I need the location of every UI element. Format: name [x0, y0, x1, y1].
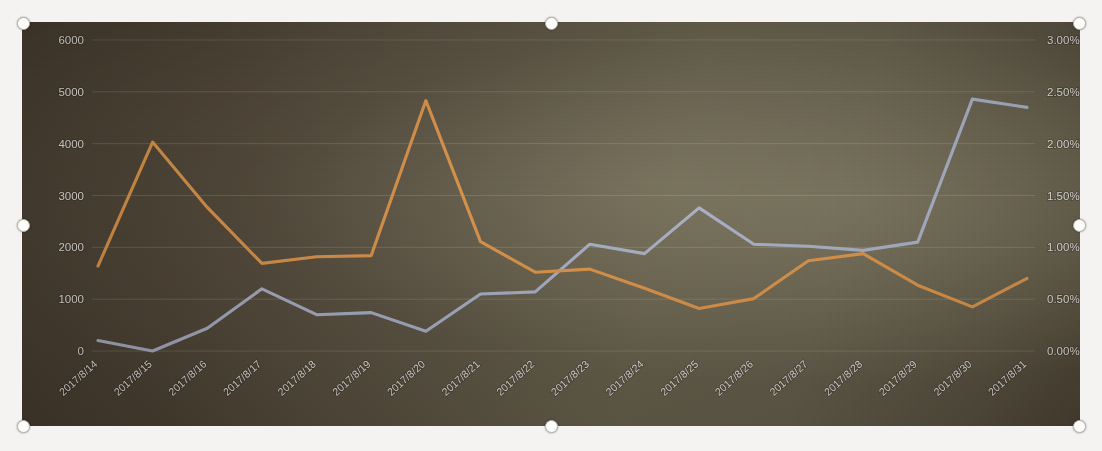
x-axis-tick: 2017/8/19: [330, 357, 373, 397]
right-axis-tick-labels: 0.00%0.50%1.00%1.50%2.00%2.50%3.00%: [1047, 34, 1080, 357]
x-axis-tick: 2017/8/23: [548, 357, 591, 397]
right-axis-tick: 0.00%: [1047, 345, 1080, 357]
left-axis-tick: 0: [78, 345, 84, 357]
x-axis-tick: 2017/8/16: [166, 357, 209, 397]
selection-handle-top-center[interactable]: [545, 17, 558, 30]
x-axis-tick: 2017/8/26: [712, 357, 755, 397]
selection-handle-middle-right[interactable]: [1073, 219, 1086, 232]
right-axis-tick: 3.00%: [1047, 34, 1080, 46]
right-axis-tick: 0.50%: [1047, 293, 1080, 305]
x-axis-tick: 2017/8/15: [111, 357, 154, 397]
series-lines[interactable]: [98, 99, 1027, 351]
slide-canvas: 0100020003000400050006000 0.00%0.50%1.00…: [0, 0, 1102, 451]
x-axis-tick: 2017/8/22: [494, 357, 537, 397]
x-axis-tick-labels: 2017/8/142017/8/152017/8/162017/8/172017…: [57, 357, 1029, 397]
series-line-series-orange[interactable]: [98, 101, 1027, 309]
left-axis-tick: 1000: [58, 293, 84, 305]
selection-handle-middle-left[interactable]: [17, 219, 30, 232]
selection-handle-bottom-left[interactable]: [17, 420, 30, 433]
selection-handle-top-left[interactable]: [17, 17, 30, 30]
x-axis-tick: 2017/8/27: [767, 357, 810, 397]
left-axis-tick-labels: 0100020003000400050006000: [58, 34, 84, 357]
chart-object[interactable]: 0100020003000400050006000 0.00%0.50%1.00…: [22, 22, 1080, 426]
right-axis-tick: 1.50%: [1047, 190, 1080, 202]
selection-handle-bottom-center[interactable]: [545, 420, 558, 433]
x-axis-tick: 2017/8/28: [822, 357, 865, 397]
x-axis-tick: 2017/8/29: [876, 357, 919, 397]
right-axis-tick: 2.50%: [1047, 86, 1080, 98]
x-axis-tick: 2017/8/14: [57, 357, 100, 397]
right-axis-tick: 2.00%: [1047, 138, 1080, 150]
series-line-series-blue[interactable]: [98, 99, 1027, 351]
ghost-caption-right: [470, 430, 478, 441]
x-axis-tick: 2017/8/18: [275, 357, 318, 397]
ghost-caption-left: [130, 430, 138, 441]
line-chart[interactable]: 0100020003000400050006000 0.00%0.50%1.00…: [22, 22, 1080, 426]
left-axis-tick: 6000: [58, 34, 84, 46]
left-axis-tick: 3000: [58, 190, 84, 202]
x-axis-tick: 2017/8/24: [603, 357, 646, 397]
x-axis-tick: 2017/8/30: [931, 357, 974, 397]
x-axis-tick: 2017/8/20: [384, 357, 427, 397]
x-axis-tick: 2017/8/21: [439, 357, 482, 397]
gridlines: [92, 40, 1035, 351]
x-axis-tick: 2017/8/25: [658, 357, 701, 397]
left-axis-tick: 4000: [58, 138, 84, 150]
x-axis-tick: 2017/8/17: [221, 357, 264, 397]
x-axis-tick: 2017/8/31: [986, 357, 1029, 397]
selection-handle-bottom-right[interactable]: [1073, 420, 1086, 433]
selection-handle-top-right[interactable]: [1073, 17, 1086, 30]
left-axis-tick: 5000: [58, 86, 84, 98]
right-axis-tick: 1.00%: [1047, 241, 1080, 253]
left-axis-tick: 2000: [58, 241, 84, 253]
